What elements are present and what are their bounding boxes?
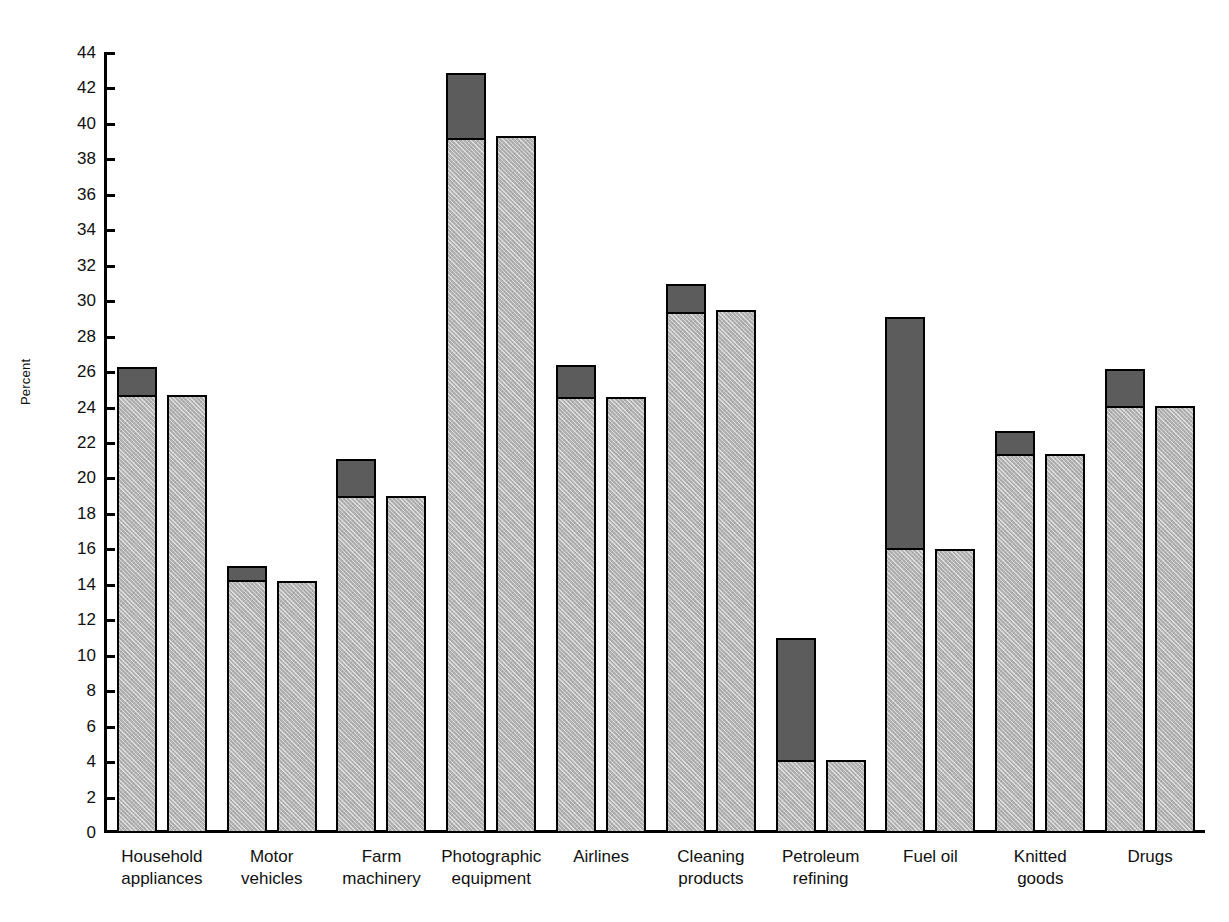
x-axis-category-label: Householdappliances: [107, 846, 217, 890]
category-label-line: Drugs: [1095, 846, 1205, 868]
y-tick-label: 4: [50, 753, 96, 770]
y-tick-label: 44: [50, 44, 96, 61]
y-tick-label: 20: [50, 469, 96, 486]
bar-group: [985, 53, 1095, 833]
bar-series-container: [107, 53, 1205, 833]
y-tick-label: 14: [50, 576, 96, 593]
category-label-line: Household: [107, 846, 217, 868]
bar-secondary: [167, 395, 207, 833]
category-label-line: products: [656, 868, 766, 890]
bar-secondary: [1155, 406, 1195, 833]
bar-primary-dark-segment: [446, 73, 486, 140]
category-label-line: vehicles: [217, 868, 327, 890]
x-axis-category-label: Photographicequipment: [436, 846, 546, 890]
y-tick-label: 28: [50, 328, 96, 345]
bar-primary: [666, 312, 706, 833]
category-label-line: machinery: [327, 868, 437, 890]
bar-primary-dark-segment: [117, 367, 157, 397]
bar-group: [107, 53, 217, 833]
y-tick-label: 40: [50, 115, 96, 132]
bar-primary: [1105, 406, 1145, 833]
bar-primary-dark-segment: [227, 566, 267, 582]
bar-secondary: [826, 760, 866, 833]
bar-primary: [776, 760, 816, 833]
category-label-line: Petroleum: [766, 846, 876, 868]
bar-group: [876, 53, 986, 833]
x-axis-category-label: Drugs: [1095, 846, 1205, 868]
y-tick-label: 10: [50, 647, 96, 664]
y-tick-label: 36: [50, 186, 96, 203]
category-label-line: appliances: [107, 868, 217, 890]
bar-secondary: [277, 581, 317, 833]
bar-group: [327, 53, 437, 833]
bar-primary-dark-segment: [666, 284, 706, 314]
category-label-line: Motor: [217, 846, 327, 868]
category-label-line: refining: [766, 868, 876, 890]
bar-secondary: [606, 397, 646, 833]
bar-group: [546, 53, 656, 833]
bar-group: [1095, 53, 1205, 833]
x-axis-category-label: Farmmachinery: [327, 846, 437, 890]
y-tick-label: 8: [50, 682, 96, 699]
y-tick-label: 22: [50, 434, 96, 451]
y-tick-label: 0: [50, 824, 96, 841]
bar-primary: [117, 395, 157, 833]
bar-secondary: [716, 310, 756, 833]
y-tick-label: 30: [50, 292, 96, 309]
bar-secondary: [496, 136, 536, 833]
bar-primary-dark-segment: [885, 317, 925, 549]
bar-secondary: [935, 549, 975, 833]
bar-secondary: [386, 496, 426, 833]
bar-chart: Percent 02468101214161820222426283032343…: [0, 0, 1229, 922]
category-label-line: Airlines: [546, 846, 656, 868]
bar-primary-dark-segment: [995, 431, 1035, 456]
bar-primary: [446, 138, 486, 833]
bar-primary-dark-segment: [776, 638, 816, 762]
bar-group: [436, 53, 546, 833]
category-label-line: goods: [985, 868, 1095, 890]
category-label-line: Farm: [327, 846, 437, 868]
category-label-line: Photographic: [436, 846, 546, 868]
category-label-line: Cleaning: [656, 846, 766, 868]
bar-group: [656, 53, 766, 833]
y-tick-label: 16: [50, 540, 96, 557]
y-tick-label: 6: [50, 718, 96, 735]
bar-primary-dark-segment: [336, 459, 376, 498]
category-label-line: equipment: [436, 868, 546, 890]
y-tick-label: 18: [50, 505, 96, 522]
y-tick-label: 2: [50, 789, 96, 806]
bar-secondary: [1045, 454, 1085, 833]
category-label-line: Fuel oil: [876, 846, 986, 868]
bar-primary: [227, 580, 267, 834]
x-axis-category-label: Motorvehicles: [217, 846, 327, 890]
x-axis-category-label: Knittedgoods: [985, 846, 1095, 890]
x-axis-category-labels: HouseholdappliancesMotorvehiclesFarmmach…: [107, 846, 1205, 906]
y-tick-label: 38: [50, 150, 96, 167]
bar-group: [766, 53, 876, 833]
y-tick-label: 24: [50, 399, 96, 416]
x-axis-category-label: Fuel oil: [876, 846, 986, 868]
y-axis-label: Percent: [18, 285, 33, 405]
y-tick-label: 26: [50, 363, 96, 380]
bar-group: [217, 53, 327, 833]
y-tick-label: 34: [50, 221, 96, 238]
x-axis-category-label: Cleaningproducts: [656, 846, 766, 890]
x-axis-category-label: Airlines: [546, 846, 656, 868]
bar-primary: [556, 397, 596, 833]
y-tick-label: 12: [50, 611, 96, 628]
bar-primary: [995, 454, 1035, 833]
bar-primary-dark-segment: [556, 365, 596, 399]
y-tick-label: 42: [50, 79, 96, 96]
bar-primary: [336, 496, 376, 833]
bar-primary-dark-segment: [1105, 369, 1145, 408]
category-label-line: Knitted: [985, 846, 1095, 868]
bar-primary: [885, 548, 925, 833]
x-axis-category-label: Petroleumrefining: [766, 846, 876, 890]
y-tick-label: 32: [50, 257, 96, 274]
